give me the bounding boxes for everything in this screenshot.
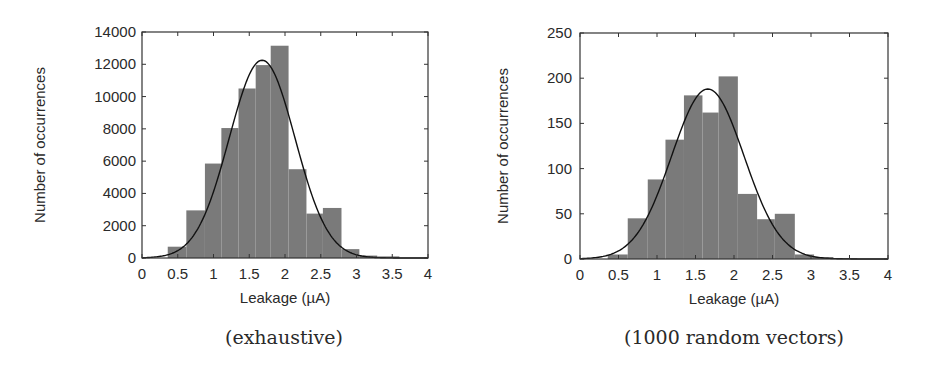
y-tick-label: 0 — [564, 250, 572, 267]
histogram-bar — [738, 194, 757, 259]
histogram-bar — [702, 113, 718, 259]
x-tick-label: 1 — [653, 266, 661, 283]
x-tick-label: 3.5 — [839, 266, 860, 283]
y-tick-label: 50 — [555, 205, 572, 222]
histogram-bars — [608, 76, 857, 259]
y-tick-label: 100 — [547, 160, 572, 177]
x-tick-label: 2.5 — [762, 266, 783, 283]
histogram-bar — [665, 140, 683, 259]
histogram-panel-random: 00.511.522.533.54050100150200250Leakage … — [0, 0, 927, 375]
histogram-random-plot: 00.511.522.533.54050100150200250Leakage … — [0, 0, 927, 375]
x-axis-label: Leakage (µA) — [689, 290, 779, 307]
histogram-bar — [648, 179, 666, 259]
y-tick-label: 150 — [547, 114, 572, 131]
caption-random: (1000 random vectors) — [624, 326, 844, 348]
x-tick-label: 3 — [807, 266, 815, 283]
x-tick-label: 0.5 — [608, 266, 629, 283]
histogram-bar — [775, 214, 795, 259]
x-tick-label: 4 — [884, 266, 892, 283]
x-tick-label: 1.5 — [685, 266, 706, 283]
y-tick-label: 200 — [547, 69, 572, 86]
x-tick-label: 0 — [576, 266, 584, 283]
histogram-bar — [608, 254, 628, 259]
histogram-bar — [684, 95, 702, 259]
x-tick-label: 2 — [730, 266, 738, 283]
histogram-bar — [628, 218, 648, 259]
y-tick-label: 250 — [547, 24, 572, 41]
histogram-bar — [719, 76, 738, 259]
y-axis-label: Number of occurrences — [494, 68, 511, 224]
